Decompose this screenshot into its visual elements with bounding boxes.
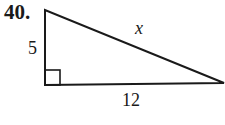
bottom-leg-label: 12 (122, 90, 140, 110)
right-triangle-diagram: 5 x 12 (0, 0, 225, 125)
hypotenuse-label: x (134, 18, 143, 38)
right-angle-marker (45, 70, 60, 85)
left-leg-label: 5 (28, 38, 37, 58)
